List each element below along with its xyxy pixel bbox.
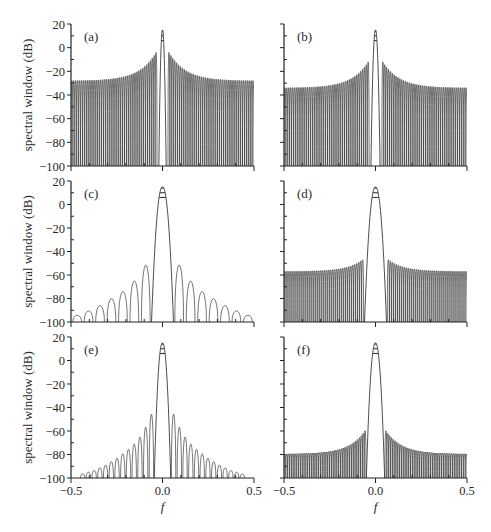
x-tick-label: 0.5: [246, 484, 262, 498]
y-tick-label: −40: [45, 245, 65, 259]
panel-label: (a): [84, 29, 98, 44]
sidelobes: [284, 431, 467, 478]
y-tick-label: −80: [45, 448, 65, 462]
main-lobe: [371, 30, 380, 166]
y-tick-label: 0: [59, 354, 65, 368]
y-tick-label: 0: [59, 198, 65, 212]
y-tick-label: −20: [45, 378, 65, 392]
main-lobe: [159, 30, 166, 166]
y-tick-label: −100: [39, 316, 65, 330]
x-axis-label: f: [161, 499, 167, 514]
y-tick-label: −80: [45, 136, 65, 150]
panel-b: (b): [280, 24, 467, 171]
y-tick-label: 20: [53, 175, 66, 189]
axes: −0.50.00.5: [273, 337, 475, 498]
panel-label: (b): [297, 29, 312, 44]
plot-area: [71, 30, 254, 166]
y-tick-label: −100: [39, 160, 65, 174]
sidelobes: [71, 52, 254, 166]
plot-area: [73, 187, 252, 322]
y-tick-label: −60: [45, 269, 65, 283]
panel-c: −100−80−60−40−20020(c)spectral window (d…: [20, 175, 254, 330]
sidelobes: [284, 62, 467, 166]
panel-f: −0.50.00.5(f)f: [273, 337, 475, 514]
x-tick-label: 0.0: [368, 484, 384, 498]
panel-label: (c): [84, 186, 98, 201]
y-tick-label: −60: [45, 425, 65, 439]
axes: −100−80−60−40−20020−0.50.00.5: [39, 331, 262, 499]
panel-e: −100−80−60−40−20020−0.50.00.5(e)spectral…: [20, 331, 262, 515]
y-tick-label: 0: [59, 41, 65, 55]
y-tick-label: −40: [45, 89, 65, 103]
plot-area: [284, 343, 467, 478]
x-tick-label: −0.5: [60, 484, 83, 498]
plot-area: [284, 187, 467, 322]
x-tick-label: 0.5: [459, 484, 475, 498]
plot-area: [284, 30, 467, 166]
y-tick-label: 20: [53, 331, 66, 345]
panel-d: (d): [280, 181, 467, 327]
panel-a: −100−80−60−40−20020(a)spectral window (d…: [20, 18, 254, 174]
panel-label: (d): [297, 186, 312, 201]
y-tick-label: 20: [53, 18, 66, 32]
y-tick-label: −60: [45, 112, 65, 126]
x-tick-label: −0.5: [273, 484, 296, 498]
x-tick-label: 0.0: [155, 484, 171, 498]
y-tick-label: −20: [45, 65, 65, 79]
y-axis-label: spectral window (dB): [20, 195, 35, 308]
panel-label: (e): [84, 342, 98, 357]
sidelobes: [284, 260, 467, 322]
main-lobe: [366, 343, 384, 478]
main-lobe: [365, 187, 387, 322]
sidelobes: [73, 265, 252, 322]
y-tick-label: −20: [45, 222, 65, 236]
axes: −100−80−60−40−20020: [39, 175, 254, 330]
spectral-window-figure: −100−80−60−40−20020(a)spectral window (d…: [0, 0, 491, 532]
plot-area: [80, 343, 244, 478]
panel-label: (f): [297, 342, 310, 357]
x-axis-label: f: [374, 499, 380, 514]
y-axis-label: spectral window (dB): [20, 351, 35, 464]
sidelobes: [80, 414, 244, 478]
y-axis-label: spectral window (dB): [20, 39, 35, 152]
y-tick-label: −80: [45, 292, 65, 306]
main-lobe: [152, 187, 174, 322]
main-lobe: [154, 343, 170, 478]
y-tick-label: −40: [45, 401, 65, 415]
